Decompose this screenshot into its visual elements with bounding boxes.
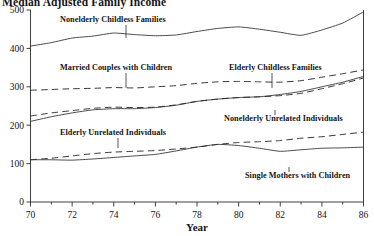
chart-axes: 0100200300400500707274767880828486 [10,5,369,219]
x-axis-tick-label: 74 [109,210,119,220]
series-annotation-label: Nonelderly Childless Families [60,15,166,24]
y-axis-tick-label: 0 [19,197,24,207]
y-axis-tick-label: 400 [10,44,25,54]
series-line-single-mothers-with-children [31,144,364,160]
x-axis-tick-label: 72 [67,210,77,220]
chart-series [31,12,364,160]
x-axis-tick-label: 80 [234,210,244,220]
series-annotation-label: Elderly Childless Families [229,63,322,72]
chart-annotations: Nonelderly Childless FamiliesMarried Cou… [60,15,351,180]
series-annotation-label: Single Mothers with Children [245,171,351,180]
series-line-married-couples-with-children [31,70,364,90]
chart-plot-svg: 0100200300400500707274767880828486 Nonel… [0,0,374,236]
y-axis-tick-label: 200 [10,121,25,131]
y-axis-tick-label: 100 [10,159,25,169]
x-axis-tick-label: 76 [151,210,161,220]
chart-container: Median Adjusted Family Income 0100200300… [0,0,374,236]
x-axis-tick-label: 82 [276,210,286,220]
series-annotation-label: Married Couples with Children [60,63,172,72]
x-axis-tick-label: 86 [359,210,369,220]
series-annotation-label: Nonelderly Unrelated Individuals [224,114,343,123]
y-axis-tick-label: 500 [10,5,25,15]
x-axis-tick-label: 70 [26,210,36,220]
chart-x-axis-title: Year [186,221,208,233]
x-axis-tick-label: 78 [192,210,202,220]
y-axis-tick-label: 300 [10,82,25,92]
x-axis-tick-label: 84 [317,210,327,220]
x-axis-title-label: Year [186,221,208,233]
series-annotation-label: Elderly Unrelated Individuals [60,128,166,137]
